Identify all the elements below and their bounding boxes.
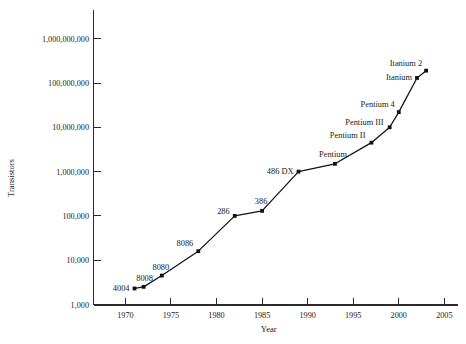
data-point-marker (388, 125, 392, 129)
x-tick-label: 1975 (163, 311, 179, 320)
x-tick-label: 1995 (345, 311, 361, 320)
data-point-label: Pentium (319, 150, 347, 159)
moore-law-chart: 1,00010,000100,0001,000,00010,000,000100… (0, 0, 466, 344)
data-point-marker (397, 110, 401, 114)
y-tick-label: 100,000,000 (48, 79, 89, 88)
x-tick-label: 1990 (299, 311, 315, 320)
point-label-layer: 4004800880808086286386486 DXPentiumPenti… (113, 59, 422, 294)
data-point-label: 4004 (113, 284, 131, 293)
data-point-label: Pentium III (345, 118, 384, 127)
data-point-marker (142, 285, 146, 289)
data-point-label: 8086 (177, 239, 194, 248)
x-tick-label: 1970 (117, 311, 133, 320)
x-axis-group: 19701975198019851990199520002005 Year (94, 298, 459, 334)
data-point-marker (233, 214, 237, 218)
x-tick-label: 2000 (391, 311, 407, 320)
data-point-label: Pentium II (330, 131, 366, 140)
data-point-marker (133, 287, 137, 291)
data-point-marker (160, 274, 164, 278)
data-point-marker (415, 76, 419, 80)
y-tick-label: 10,000 (66, 256, 89, 265)
x-axis-ticks: 19701975198019851990199520002005 (117, 298, 452, 320)
data-point-label: 8080 (152, 263, 169, 272)
data-point-label: 8008 (136, 274, 153, 283)
x-axis-title: Year (261, 324, 277, 334)
data-point-marker (333, 162, 337, 166)
y-tick-label: 1,000,000 (56, 168, 89, 177)
chart-canvas: 1,00010,000100,0001,000,00010,000,000100… (0, 0, 466, 344)
x-tick-label: 1980 (208, 311, 224, 320)
y-tick-label: 100,000 (62, 212, 89, 221)
data-point-label: 386 (255, 197, 268, 206)
x-tick-label: 2005 (436, 311, 452, 320)
data-point-label: Pentium 4 (361, 100, 396, 109)
data-point-label: 286 (217, 207, 230, 216)
x-tick-label: 1985 (254, 311, 270, 320)
data-point-marker (260, 209, 264, 213)
data-point-label: Itanium 2 (390, 59, 422, 68)
y-tick-label: 1,000 (71, 301, 89, 310)
y-axis-group: 1,00010,000100,0001,000,00010,000,000100… (6, 10, 101, 310)
y-tick-label: 10,000,000 (52, 123, 89, 132)
data-point-marker (297, 170, 301, 174)
data-point-marker (424, 69, 428, 73)
data-point-marker (196, 249, 200, 253)
y-tick-label: 1,000,000,000 (42, 35, 89, 44)
data-point-marker (370, 141, 374, 145)
y-axis-title: Transistors (6, 158, 16, 197)
data-point-label: 486 DX (267, 167, 294, 176)
data-point-label: Itanium (386, 73, 413, 82)
y-axis-ticks: 1,00010,000100,0001,000,00010,000,000100… (42, 35, 101, 310)
